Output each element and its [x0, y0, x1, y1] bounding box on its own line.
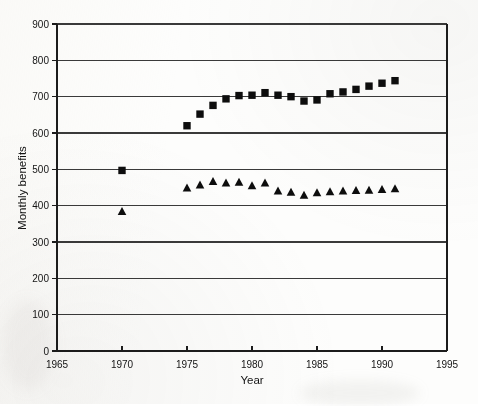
data-point-triangle [339, 186, 348, 194]
data-point-triangle [196, 181, 205, 189]
data-point-square [118, 167, 125, 174]
x-tick-label: 1995 [436, 359, 459, 370]
data-point-triangle [287, 188, 296, 196]
y-tick-label: 200 [32, 273, 49, 284]
y-tick-label: 600 [32, 128, 49, 139]
y-tick-label: 0 [43, 346, 49, 357]
gridlines-group [57, 24, 447, 315]
x-tick-label: 1980 [241, 359, 264, 370]
data-point-square [183, 122, 190, 129]
data-point-triangle [209, 177, 218, 185]
data-point-square [339, 88, 346, 95]
series-squares [118, 77, 398, 174]
y-axis-title: Monthly benefits [16, 146, 28, 230]
data-point-square [300, 97, 307, 104]
data-point-square [261, 89, 268, 96]
y-tick-label: 800 [32, 55, 49, 66]
data-point-square [326, 90, 333, 97]
data-point-triangle [300, 191, 309, 199]
y-tick-label: 100 [32, 309, 49, 320]
y-tick-label: 700 [32, 91, 49, 102]
data-point-square [352, 86, 359, 93]
data-point-triangle [313, 188, 322, 196]
x-tick-label: 1975 [176, 359, 199, 370]
data-point-square [274, 92, 281, 99]
data-point-square [209, 102, 216, 109]
series-triangles [118, 177, 400, 215]
data-point-triangle [261, 178, 270, 186]
data-point-triangle [274, 186, 283, 194]
x-tick-label: 1965 [46, 359, 69, 370]
data-point-triangle [248, 181, 257, 189]
data-point-square [391, 77, 398, 84]
data-point-triangle [326, 187, 335, 195]
data-point-square [365, 82, 372, 89]
x-tick-label: 1970 [111, 359, 134, 370]
x-axis-title: Year [240, 374, 263, 386]
data-point-triangle [222, 178, 231, 186]
y-tick-label: 400 [32, 200, 49, 211]
data-point-square [313, 96, 320, 103]
data-point-square [378, 80, 385, 87]
x-tick-label: 1990 [371, 359, 394, 370]
data-point-triangle [378, 185, 387, 193]
data-point-square [248, 92, 255, 99]
y-tick-labels: 0100200300400500600700800900 [32, 19, 49, 357]
y-tick-label: 900 [32, 19, 49, 30]
data-point-triangle [365, 186, 374, 194]
data-point-triangle [183, 184, 192, 192]
x-tick-labels: 1965197019751980198519901995 [46, 359, 459, 370]
data-point-triangle [352, 186, 361, 194]
data-point-square [235, 92, 242, 99]
data-point-triangle [235, 178, 244, 186]
data-point-square [222, 95, 229, 102]
x-tick-label: 1985 [306, 359, 329, 370]
y-tick-label: 300 [32, 237, 49, 248]
y-tick-label: 500 [32, 164, 49, 175]
data-point-square [287, 93, 294, 100]
data-point-triangle [391, 184, 400, 192]
data-point-square [196, 110, 203, 117]
data-point-triangle [118, 207, 127, 215]
